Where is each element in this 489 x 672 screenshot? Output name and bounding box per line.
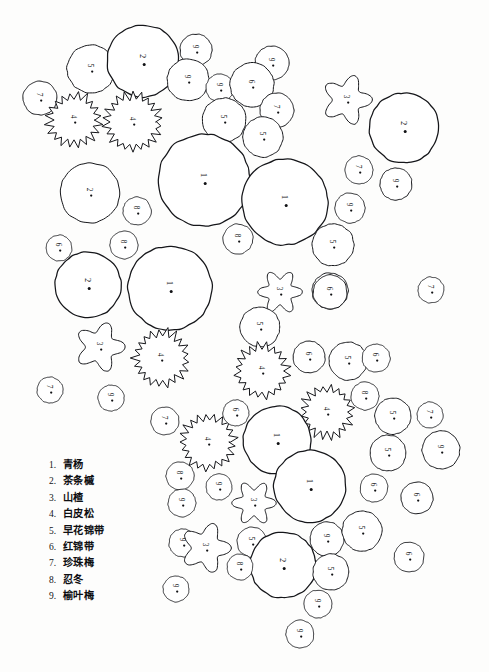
species-number-label: 2 <box>399 121 408 125</box>
plant-symbol-circle-9: 9 <box>310 522 344 556</box>
species-number-label: 9 <box>183 75 191 79</box>
canopy-outline <box>98 385 124 411</box>
canopy-outline <box>130 328 188 388</box>
canopy-outline <box>422 431 460 469</box>
species-number-label: 9 <box>322 534 330 538</box>
planting-point-dot <box>254 504 256 506</box>
plant-symbol-circle-8: 8 <box>351 382 379 411</box>
plant-symbol-spiky-4: 4 <box>234 342 291 400</box>
canopy-outline <box>345 156 373 184</box>
species-number-label: 2 <box>278 558 287 562</box>
species-number-label: 6 <box>325 287 333 291</box>
planting-point-dot <box>388 454 390 456</box>
plant-symbol-circle-9: 9 <box>206 74 234 102</box>
species-number-label: 5 <box>343 356 351 360</box>
legend-item-label: 珍珠梅 <box>63 554 94 569</box>
canopy-outline <box>313 275 347 309</box>
plant-symbol-lobed-3: 3 <box>79 323 126 371</box>
species-number-label: 8 <box>119 240 127 244</box>
planting-point-dot <box>74 121 76 123</box>
legend-item-9: 9.榆叶梅 <box>40 587 190 603</box>
planting-point-dot <box>137 212 139 214</box>
planting-point-dot <box>88 287 91 290</box>
legend-item-number: 7. <box>40 558 56 568</box>
legend-item-label: 榆叶梅 <box>63 587 94 602</box>
plant-symbol-circle-5: 5 <box>370 435 406 471</box>
canopy-outline <box>310 522 344 556</box>
planting-point-dot <box>417 499 419 501</box>
canopy-outline <box>401 482 433 514</box>
planting-point-dot <box>300 635 302 637</box>
plant-symbol-circle-5: 5 <box>243 117 284 158</box>
planting-point-dot <box>310 488 313 491</box>
legend-item-label: 白皮松 <box>63 505 94 520</box>
planting-point-dot <box>165 422 167 424</box>
plant-symbol-circle-9: 9 <box>167 59 209 101</box>
species-number-label: 6 <box>304 352 312 356</box>
planting-point-dot <box>348 362 350 364</box>
plant-symbol-spiky-4: 4 <box>102 91 162 152</box>
plant-symbol-circle-5: 5 <box>342 511 382 551</box>
planting-point-dot <box>124 246 126 248</box>
planting-point-dot <box>133 123 135 125</box>
species-number-label: 9 <box>436 445 444 449</box>
canopy-outline <box>79 323 126 371</box>
plant-symbol-spiky-4: 4 <box>130 328 188 388</box>
species-number-label: 7 <box>272 105 280 109</box>
planting-point-dot <box>263 138 265 140</box>
species-number-label: 6 <box>371 353 379 357</box>
species-number-label: 1 <box>199 173 208 177</box>
species-number-label: 5 <box>247 537 255 541</box>
canopy-outline <box>60 163 119 223</box>
canopy-outline <box>370 435 406 471</box>
species-number-label: 9 <box>215 83 223 87</box>
planting-point-dot <box>262 372 264 374</box>
canopy-outline <box>313 554 349 590</box>
planting-point-dot <box>441 451 443 453</box>
planting-point-dot <box>170 290 173 293</box>
legend-item-4: 4.白皮松 <box>40 505 190 521</box>
canopy-outline <box>369 93 438 163</box>
legend-item-5: 5.早花锦带 <box>40 522 190 538</box>
planting-point-dot <box>50 391 52 393</box>
legend-item-number: 2. <box>40 476 56 486</box>
plant-symbol-circle-1: 1 <box>158 134 250 226</box>
planting-point-dot <box>431 291 433 293</box>
canopy-outline <box>206 474 232 500</box>
species-number-label: 9 <box>345 203 353 207</box>
planting-point-dot <box>350 209 352 211</box>
canopy-outline <box>151 407 179 435</box>
planting-point-dot <box>365 397 367 399</box>
canopy-outline <box>325 76 372 125</box>
planting-point-dot <box>100 348 102 350</box>
species-number-label: 7 <box>35 93 43 97</box>
planting-point-dot <box>111 399 113 401</box>
planting-point-dot <box>161 359 163 361</box>
legend-item-number: 5. <box>40 526 56 536</box>
planting-point-dot <box>260 328 262 330</box>
planting-point-dot <box>362 532 364 534</box>
planting-point-dot <box>90 194 92 196</box>
canopy-outline <box>242 159 328 245</box>
planting-point-dot <box>359 171 361 173</box>
plant-symbol-circle-6: 6 <box>401 482 433 514</box>
plant-symbol-circle-9: 9 <box>206 474 232 500</box>
plant-symbol-circle-2: 2 <box>250 532 317 597</box>
species-number-label: 7 <box>425 410 433 414</box>
planting-point-dot <box>59 249 61 251</box>
planting-point-dot <box>393 417 395 419</box>
plant-symbol-lobed-3: 3 <box>258 272 303 311</box>
planting-point-dot <box>196 51 198 53</box>
plant-symbol-circle-2: 2 <box>369 93 438 163</box>
canopy-outline <box>110 231 138 259</box>
canopy-outline <box>293 341 325 373</box>
planting-point-dot <box>285 204 288 207</box>
planting-point-dot <box>204 182 207 185</box>
legend-item-label: 山楂 <box>63 489 84 504</box>
canopy-outline <box>286 620 314 648</box>
canopy-outline <box>360 474 388 502</box>
species-number-label: 6 <box>54 243 62 247</box>
plant-symbol-circle-6: 6 <box>362 344 390 372</box>
planting-point-dot <box>309 358 311 360</box>
legend-item-label: 茶条槭 <box>63 472 94 487</box>
